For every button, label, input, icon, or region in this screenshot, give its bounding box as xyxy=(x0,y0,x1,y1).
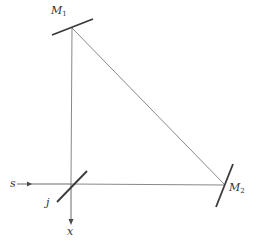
label-source: s xyxy=(10,177,16,190)
label-m2: M2 xyxy=(228,181,245,195)
label-m1: M1 xyxy=(50,4,67,18)
mirror-m1 xyxy=(52,19,93,35)
label-output: x xyxy=(67,225,74,238)
beam-splitter-j xyxy=(57,171,87,202)
source-arrow-icon xyxy=(27,182,32,187)
interferometer-diagram: M1 M2 s j x xyxy=(0,0,256,241)
beam-j-to-m1 xyxy=(71,28,72,184)
beam-m1-to-m2 xyxy=(72,28,225,185)
label-splitter: j xyxy=(43,196,50,209)
beam-j-to-m2 xyxy=(71,184,225,185)
